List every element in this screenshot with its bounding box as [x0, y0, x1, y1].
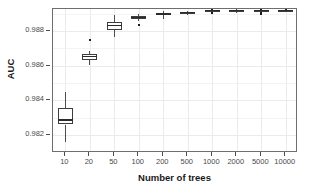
y-axis-tick — [46, 30, 50, 31]
chart-root: AUC 0.9820.9840.9860.9881020501002005001… — [0, 0, 309, 191]
x-axis-tick — [162, 152, 163, 156]
x-axis-tick — [64, 152, 65, 156]
y-axis-tick — [46, 65, 50, 66]
x-axis-tick — [235, 152, 236, 156]
y-axis-title: AUC — [4, 44, 18, 94]
x-axis-tick — [211, 152, 212, 156]
y-axis-tick-label: 0.988 — [0, 25, 44, 34]
x-axis-tick — [113, 152, 114, 156]
y-axis-tick-label: 0.984 — [0, 94, 44, 103]
x-axis-tick — [284, 152, 285, 156]
y-axis-tick — [46, 99, 50, 100]
boxplot-10000 — [53, 9, 296, 151]
plot-panel — [52, 8, 297, 152]
median-line — [278, 10, 293, 12]
x-axis-tick — [88, 152, 89, 156]
x-axis-tick — [260, 152, 261, 156]
y-axis-tick — [46, 134, 50, 135]
outlier-point — [285, 8, 287, 10]
y-axis-tick-label: 0.986 — [0, 60, 44, 69]
x-axis-tick — [137, 152, 138, 156]
x-axis-tick-label: 10000 — [265, 157, 305, 166]
x-axis-title: Number of trees — [52, 172, 297, 183]
x-axis-tick — [186, 152, 187, 156]
y-axis-tick-label: 0.982 — [0, 129, 44, 138]
